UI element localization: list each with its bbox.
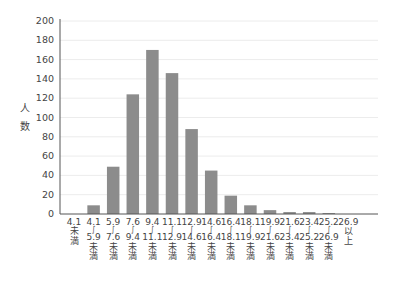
y-tick-label: 100 bbox=[28, 112, 54, 123]
histogram-chart: 人 数 020406080100120140160180200 4.1未満4.1… bbox=[0, 0, 395, 285]
bar bbox=[87, 205, 100, 214]
bar bbox=[205, 171, 218, 214]
bar bbox=[107, 167, 120, 214]
bar bbox=[225, 196, 238, 214]
bar bbox=[166, 73, 179, 214]
y-tick-label: 120 bbox=[28, 92, 54, 103]
bar bbox=[127, 94, 140, 214]
y-tick-label: 200 bbox=[28, 15, 54, 26]
bar bbox=[185, 129, 198, 214]
y-tick-label: 180 bbox=[28, 34, 54, 45]
y-tick-label: 20 bbox=[28, 189, 54, 200]
bar bbox=[146, 50, 159, 214]
y-tick-label: 0 bbox=[28, 208, 54, 219]
bar bbox=[244, 205, 257, 214]
y-tick-label: 160 bbox=[28, 54, 54, 65]
x-tick-label: 26.9以上 bbox=[336, 218, 360, 246]
y-tick-label: 60 bbox=[28, 150, 54, 161]
bar bbox=[264, 210, 277, 214]
y-tick-label: 80 bbox=[28, 131, 54, 142]
y-tick-label: 140 bbox=[28, 73, 54, 84]
y-tick-label: 40 bbox=[28, 169, 54, 180]
